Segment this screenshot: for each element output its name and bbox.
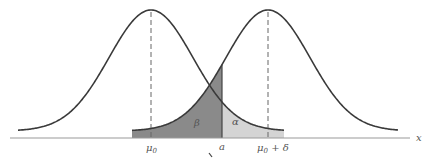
alternative-distribution-curve	[132, 10, 398, 130]
tick-label-mu0-plus-delta: μ0 + δ	[257, 142, 289, 155]
beta-region	[132, 65, 222, 138]
beta-label: β	[193, 117, 200, 128]
stray-mark	[209, 153, 212, 157]
tick-label-a: a	[219, 141, 225, 152]
hypothesis-test-diagram: x β α μ0 a μ0 + δ	[0, 0, 431, 160]
tick-label-mu0: μ0	[146, 142, 158, 155]
alpha-label: α	[232, 116, 239, 127]
x-axis-label: x	[416, 132, 422, 143]
